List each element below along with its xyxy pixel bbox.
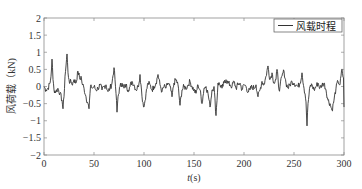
x-tick-label: 300 <box>337 158 352 169</box>
x-tick-label: 250 <box>287 158 302 169</box>
y-tick-label: −2 <box>30 150 41 161</box>
y-tick-label: −1 <box>30 115 41 126</box>
x-tick-label: 200 <box>237 158 252 169</box>
x-tick-label: 100 <box>137 158 152 169</box>
y-tick-label: −0.5 <box>23 98 41 109</box>
x-tick-label: 0 <box>42 158 47 169</box>
wind-load-chart: 21.510.50−0.5−1−1.5−2 050100150200250300… <box>0 0 362 189</box>
y-tick-label: −1.5 <box>23 132 41 143</box>
y-tick-label: 0 <box>36 81 41 92</box>
x-axis-label: t(s) <box>187 172 200 184</box>
legend: 风载时程 <box>274 19 342 32</box>
x-tick-label: 150 <box>187 158 202 169</box>
y-tick-label: 1.5 <box>29 30 42 41</box>
x-tick-label: 50 <box>89 158 99 169</box>
y-axis-label: 风荷载（kN) <box>6 58 18 114</box>
legend-entry-label: 风载时程 <box>296 21 336 32</box>
y-tick-label: 1 <box>36 47 41 58</box>
y-tick-label: 2 <box>36 13 41 24</box>
y-tick-label: 0.5 <box>29 64 42 75</box>
